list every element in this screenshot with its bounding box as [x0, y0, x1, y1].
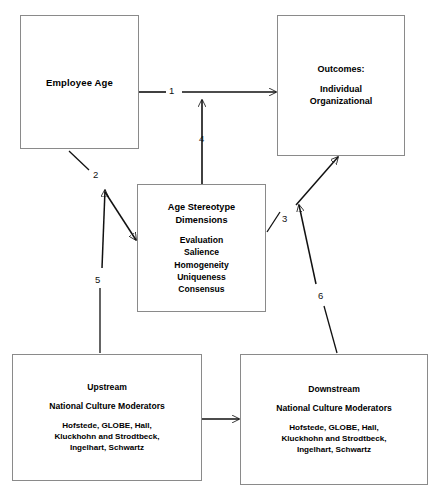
node-upstream-moderators: Upstream National Culture Moderators Hof… — [12, 354, 202, 481]
node-age-stereotype-item-salience: Salience — [184, 246, 219, 258]
edge-5-upstream-to-path-2 — [100, 190, 105, 353]
edge-label-2: 2 — [93, 170, 98, 180]
node-age-stereotype-item-evaluation: Evaluation — [180, 234, 223, 246]
node-upstream-subheading: National Culture Moderators — [49, 401, 165, 413]
edge-6-downstream-to-path-3 — [299, 205, 337, 353]
node-upstream-heading: Upstream — [87, 382, 127, 394]
node-age-stereotype-heading-line-1: Age Stereotype — [168, 201, 235, 214]
node-age-stereotype-item-homogeneity: Homogeneity — [174, 259, 228, 271]
node-downstream-moderators: Downstream National Culture Moderators H… — [240, 354, 428, 485]
node-age-stereotype-heading-line-2: Dimensions — [175, 214, 227, 227]
node-downstream-source-line-2: Kluckhohn and Strodtbeck, — [281, 433, 386, 444]
edge-label-5: 5 — [95, 275, 100, 285]
node-age-stereotype-item-uniqueness: Uniqueness — [177, 271, 226, 283]
node-downstream-source-line-3: Ingelhart, Schwartz — [297, 444, 371, 455]
node-upstream-source-line-3: Ingelhart, Schwartz — [70, 442, 144, 453]
diagram-canvas: 1 2 3 4 5 6 Employee Age Outcomes: Indiv… — [0, 0, 438, 503]
node-outcomes: Outcomes: Individual Organizational — [277, 15, 405, 156]
node-outcomes-line-individual: Individual — [320, 83, 362, 95]
node-downstream-subheading: National Culture Moderators — [276, 403, 392, 415]
node-outcomes-line-organizational: Organizational — [310, 95, 373, 107]
node-outcomes-heading: Outcomes: — [317, 63, 364, 75]
edge-label-6: 6 — [318, 291, 323, 301]
node-downstream-source-line-1: Hofstede, GLOBE, Hall, — [289, 422, 379, 433]
node-downstream-heading: Downstream — [308, 384, 360, 396]
node-age-stereotype-item-consensus: Consensus — [178, 283, 224, 295]
edge-2-employee-age-to-age-stereotype — [69, 151, 136, 240]
node-employee-age-label: Employee Age — [46, 77, 113, 88]
node-upstream-source-line-1: Hofstede, GLOBE, Hall, — [62, 420, 152, 431]
edge-3-age-stereotype-to-outcomes — [267, 157, 338, 232]
edge-label-4: 4 — [199, 134, 204, 144]
node-employee-age: Employee Age — [20, 15, 139, 149]
edge-label-1: 1 — [169, 86, 174, 96]
node-upstream-source-line-2: Kluckhohn and Strodtbeck, — [54, 431, 159, 442]
node-age-stereotype-dimensions: Age Stereotype Dimensions Evaluation Sal… — [137, 184, 266, 312]
edge-label-3: 3 — [282, 214, 287, 224]
